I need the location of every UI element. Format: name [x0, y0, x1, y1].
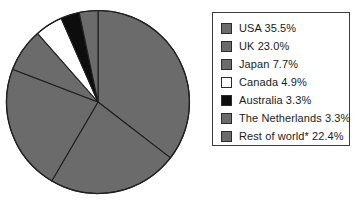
chart-legend: USA 35.5% UK 23.0% Japan 7.7% Canada 4.9… [212, 12, 350, 146]
legend-label-usa: USA 35.5% [239, 22, 296, 34]
legend-swatch-the-netherlands [221, 113, 232, 124]
legend-swatch-uk [221, 41, 232, 52]
legend-swatch-rest-of-world [221, 131, 232, 142]
pie-chart-figure: USA 35.5% UK 23.0% Japan 7.7% Canada 4.9… [0, 0, 356, 201]
legend-item: Japan 7.7% [221, 55, 349, 73]
legend-item: Canada 4.9% [221, 73, 349, 91]
legend-item: The Netherlands 3.3% [221, 109, 349, 127]
legend-item: UK 23.0% [221, 37, 349, 55]
legend-label-australia: Australia 3.3% [239, 94, 311, 106]
legend-item: Australia 3.3% [221, 91, 349, 109]
legend-label-the-netherlands: The Netherlands 3.3% [239, 112, 350, 124]
legend-label-uk: UK 23.0% [239, 40, 289, 52]
legend-item: USA 35.5% [221, 19, 349, 37]
legend-item: Rest of world* 22.4% [221, 127, 349, 145]
legend-swatch-usa [221, 23, 232, 34]
legend-swatch-australia [221, 95, 232, 106]
pie-chart [0, 0, 200, 201]
legend-swatch-japan [221, 59, 232, 70]
legend-swatch-canada [221, 77, 232, 88]
pie-chart-svg [0, 0, 200, 201]
legend-label-rest-of-world: Rest of world* 22.4% [239, 130, 344, 142]
legend-label-canada: Canada 4.9% [239, 76, 307, 88]
legend-label-japan: Japan 7.7% [239, 58, 298, 70]
